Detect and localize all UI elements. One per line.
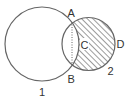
intersecting-circles-diagram: A B C D 2 1 <box>0 0 129 101</box>
circle-label-1: 1 <box>39 86 45 98</box>
point-label-a: A <box>68 7 76 19</box>
point-label-d: D <box>117 38 125 50</box>
point-label-b: B <box>68 73 75 85</box>
point-label-c: C <box>81 39 89 51</box>
circle-label-2: 2 <box>108 65 114 77</box>
